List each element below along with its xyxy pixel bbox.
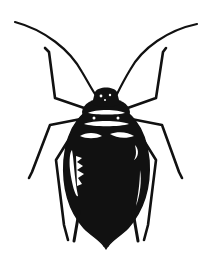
aphid-illustration: aphid (0, 0, 211, 266)
